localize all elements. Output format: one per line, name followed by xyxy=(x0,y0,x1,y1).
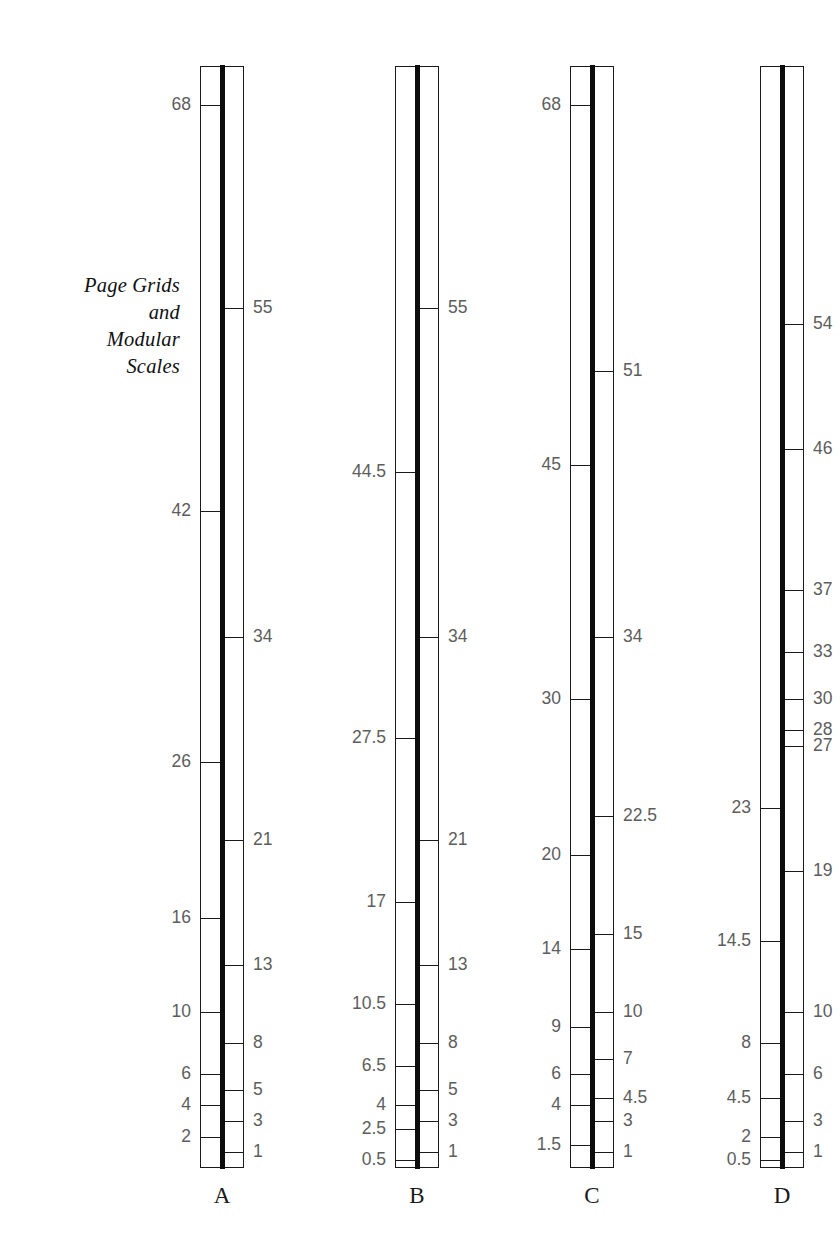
tick-label: 30 xyxy=(813,690,832,708)
tick-label: 1 xyxy=(813,1144,823,1162)
tick-label: 0.5 xyxy=(362,1151,386,1169)
tick-label: 8 xyxy=(253,1034,263,1052)
tick-mark xyxy=(595,637,615,638)
tick-label: 17 xyxy=(367,894,386,912)
tick-mark xyxy=(420,840,440,841)
tick-mark xyxy=(785,1121,805,1122)
tick-label: 5 xyxy=(448,1081,458,1099)
tick-mark xyxy=(570,105,590,106)
tick-label: 9 xyxy=(551,1019,561,1037)
center-rule xyxy=(780,65,785,1170)
tick-label: 3 xyxy=(253,1112,263,1130)
tick-label: 51 xyxy=(623,362,642,380)
center-rule xyxy=(415,65,420,1170)
tick-label: 8 xyxy=(741,1034,751,1052)
tick-mark xyxy=(595,1012,615,1013)
tick-mark xyxy=(225,1090,245,1091)
tick-mark xyxy=(395,1066,415,1067)
tick-mark xyxy=(760,1160,780,1161)
tick-mark xyxy=(570,465,590,466)
tick-mark xyxy=(225,1152,245,1153)
scale-column-d: 2314.584.520.5544637333028271910631 xyxy=(760,66,804,1168)
tick-label: 3 xyxy=(623,1112,633,1130)
tick-mark xyxy=(785,449,805,450)
tick-mark xyxy=(395,738,415,739)
tick-label: 14 xyxy=(542,940,561,958)
tick-label: 6 xyxy=(181,1065,191,1083)
tick-mark xyxy=(225,965,245,966)
tick-mark xyxy=(225,1043,245,1044)
tick-label: 68 xyxy=(172,96,191,114)
tick-mark xyxy=(395,1129,415,1130)
tick-mark xyxy=(570,1145,590,1146)
tick-mark xyxy=(595,1121,615,1122)
page-caption: Page Grids and Modular Scales xyxy=(20,272,180,380)
scale-column-a: 6842261610642553421138531 xyxy=(200,66,244,1168)
tick-mark xyxy=(595,816,615,817)
tick-label: 6 xyxy=(551,1065,561,1083)
tick-mark xyxy=(785,1152,805,1153)
tick-label: 21 xyxy=(253,831,272,849)
tick-mark xyxy=(420,1090,440,1091)
tick-label: 4.5 xyxy=(623,1089,647,1107)
tick-mark xyxy=(225,840,245,841)
tick-mark xyxy=(395,902,415,903)
tick-label: 1 xyxy=(623,1144,633,1162)
tick-mark xyxy=(570,699,590,700)
tick-mark xyxy=(595,1098,615,1099)
tick-mark xyxy=(225,1121,245,1122)
tick-mark xyxy=(200,762,220,763)
tick-label: 27 xyxy=(813,737,832,755)
tick-label: 1.5 xyxy=(537,1136,561,1154)
tick-mark xyxy=(785,746,805,747)
tick-label: 4.5 xyxy=(727,1089,751,1107)
tick-label: 19 xyxy=(813,862,832,880)
tick-label: 1 xyxy=(448,1144,458,1162)
tick-mark xyxy=(200,105,220,106)
tick-label: 55 xyxy=(448,300,467,318)
center-rule xyxy=(220,65,225,1170)
tick-mark xyxy=(760,941,780,942)
tick-label: 27.5 xyxy=(352,729,386,747)
tick-label: 46 xyxy=(813,440,832,458)
tick-label: 45 xyxy=(542,456,561,474)
tick-label: 30 xyxy=(542,690,561,708)
tick-mark xyxy=(785,1012,805,1013)
tick-label: 3 xyxy=(813,1112,823,1130)
tick-label: 2 xyxy=(741,1128,751,1146)
tick-label: 37 xyxy=(813,581,832,599)
scale-column-c: 68453020149641.5513422.5151074.531 xyxy=(570,66,614,1168)
tick-label: 34 xyxy=(623,628,642,646)
tick-label: 10 xyxy=(172,1003,191,1021)
tick-label: 3 xyxy=(448,1112,458,1130)
tick-label: 13 xyxy=(448,956,467,974)
tick-mark xyxy=(200,511,220,512)
tick-label: 4 xyxy=(181,1097,191,1115)
tick-label: 8 xyxy=(448,1034,458,1052)
tick-label: 20 xyxy=(542,847,561,865)
tick-mark xyxy=(395,1160,415,1161)
tick-mark xyxy=(395,472,415,473)
tick-label: 0.5 xyxy=(727,1151,751,1169)
tick-mark xyxy=(760,1043,780,1044)
tick-mark xyxy=(420,308,440,309)
tick-mark xyxy=(570,949,590,950)
tick-label: 1 xyxy=(253,1144,263,1162)
tick-label: 23 xyxy=(732,800,751,818)
tick-mark xyxy=(420,965,440,966)
column-letter-d: D xyxy=(760,1183,804,1209)
tick-label: 14.5 xyxy=(717,933,751,951)
tick-mark xyxy=(420,637,440,638)
tick-label: 15 xyxy=(623,925,642,943)
tick-label: 26 xyxy=(172,753,191,771)
tick-label: 7 xyxy=(623,1050,633,1068)
center-rule xyxy=(590,65,595,1170)
tick-label: 68 xyxy=(542,96,561,114)
tick-mark xyxy=(785,590,805,591)
tick-label: 55 xyxy=(253,300,272,318)
tick-mark xyxy=(595,1059,615,1060)
tick-label: 6.5 xyxy=(362,1058,386,1076)
tick-mark xyxy=(395,1004,415,1005)
caption-line-4: Scales xyxy=(20,353,180,380)
tick-mark xyxy=(785,730,805,731)
